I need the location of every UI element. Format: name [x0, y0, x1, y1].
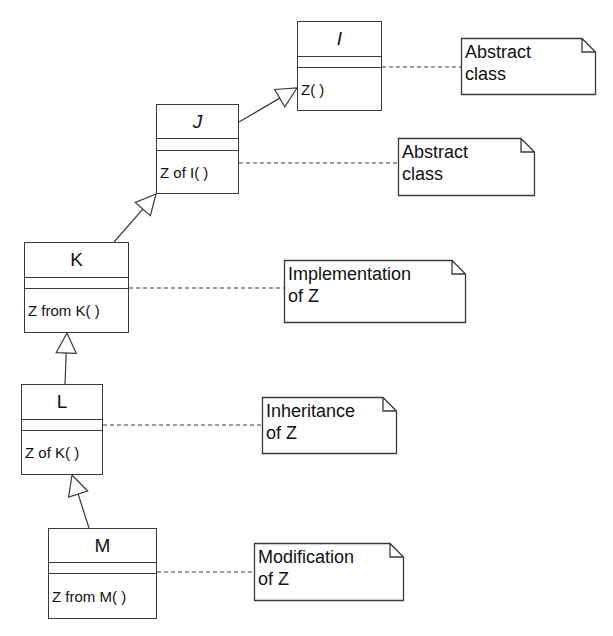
hollow-triangle-arrowhead-icon — [135, 194, 156, 216]
hollow-triangle-arrowhead-icon — [56, 333, 76, 353]
hollow-triangle-arrowhead-icon — [69, 475, 88, 497]
class-box-m[interactable]: M Z from M( ) — [48, 528, 157, 619]
note-text: Implementation of Z — [288, 263, 411, 307]
note-text: Modification of Z — [258, 546, 354, 590]
class-box-i[interactable]: I Z( ) — [297, 21, 382, 111]
class-operation: Z of K( ) — [22, 431, 102, 474]
class-operation: Z from K( ) — [25, 289, 128, 332]
generalization-arrow-k-to-j — [114, 194, 156, 242]
note-I[interactable]: Abstract class — [461, 38, 596, 95]
note-J[interactable]: Abstract class — [398, 138, 535, 196]
note-M[interactable]: Modification of Z — [254, 543, 404, 601]
generalization-arrow-l-to-k — [56, 333, 76, 384]
class-attributes-compartment — [49, 563, 156, 574]
class-attributes-compartment — [25, 278, 128, 289]
generalization-arrow-j-to-i — [239, 88, 297, 122]
class-name: M — [49, 529, 156, 563]
class-attributes-compartment — [298, 57, 381, 68]
class-operation: Z of I( ) — [157, 151, 238, 193]
class-name: J — [157, 105, 238, 139]
uml-diagram-canvas: I Z( ) J Z of I( ) K Z from K( ) L Z of … — [0, 0, 613, 636]
class-name: I — [298, 22, 381, 57]
class-operation: Z from M( ) — [49, 574, 156, 618]
class-box-l[interactable]: L Z of K( ) — [21, 384, 103, 475]
class-box-k[interactable]: K Z from K( ) — [24, 242, 129, 333]
note-text: Inheritance of Z — [266, 400, 355, 444]
note-L[interactable]: Inheritance of Z — [262, 397, 397, 454]
class-attributes-compartment — [157, 139, 238, 151]
note-K[interactable]: Implementation of Z — [284, 260, 466, 323]
class-name: L — [22, 385, 102, 420]
note-text: Abstract class — [465, 41, 531, 85]
class-attributes-compartment — [22, 420, 102, 431]
class-box-j[interactable]: J Z of I( ) — [156, 104, 239, 194]
class-operation: Z( ) — [298, 68, 381, 110]
note-text: Abstract class — [402, 141, 468, 185]
hollow-triangle-arrowhead-icon — [275, 88, 297, 107]
generalization-arrow-m-to-l — [69, 475, 89, 528]
class-name: K — [25, 243, 128, 278]
